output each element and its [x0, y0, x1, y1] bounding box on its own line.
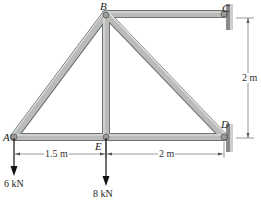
dimension-ed: 2 m	[158, 149, 175, 159]
joint-label-b: B	[100, 1, 107, 12]
truss-diagram	[0, 0, 261, 219]
member-ab	[14, 14, 106, 137]
load-label-a: 6 kN	[4, 179, 24, 189]
joint-label-c: C	[222, 3, 229, 14]
joint-label-e: E	[95, 141, 102, 152]
load-arrow-e	[103, 138, 110, 186]
load-label-e: 8 kN	[93, 189, 113, 199]
pin-b	[103, 12, 109, 18]
pin-d	[221, 134, 227, 140]
load-arrow-a	[11, 138, 18, 176]
joint-label-d: D	[221, 119, 229, 130]
truss-members	[12, 12, 226, 137]
joint-label-a: A	[3, 132, 10, 143]
dimension-ae: 1.5 m	[44, 149, 69, 159]
dimension-cd: 2 m	[241, 73, 258, 83]
member-bd	[106, 14, 224, 137]
